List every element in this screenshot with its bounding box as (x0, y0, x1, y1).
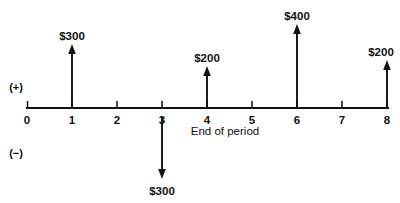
amount-label-period-6: $400 (284, 10, 310, 22)
tick-label-7: 7 (339, 114, 345, 126)
amount-label-period-8: $200 (368, 46, 394, 58)
cash-flow-svg: 0 1 2 3 4 5 6 7 8 End of period (+) (−) … (0, 0, 400, 203)
arrow-head-down-icon-period-3 (158, 169, 166, 179)
tick-label-2: 2 (114, 114, 120, 126)
cash-flow-arrow-period-6 (293, 24, 301, 108)
cash-flow-arrow-period-4 (203, 66, 211, 108)
cash-flow-arrow-period-3 (158, 117, 166, 179)
tick-label-6: 6 (294, 114, 300, 126)
tick-label-0: 0 (24, 114, 30, 126)
amount-label-period-4: $200 (194, 52, 220, 64)
cash-flow-arrow-period-8 (383, 60, 391, 108)
axis-caption: End of period (191, 125, 259, 137)
arrow-head-up-icon-period-1 (68, 44, 76, 54)
amount-label-period-1: $300 (59, 30, 85, 42)
arrow-head-up-icon-period-4 (203, 66, 211, 76)
arrow-head-up-icon-period-8 (383, 60, 391, 70)
arrow-head-up-icon-period-6 (293, 24, 301, 34)
tick-label-8: 8 (384, 114, 391, 126)
positive-sign-label: (+) (9, 81, 23, 93)
tick-label-1: 1 (69, 114, 76, 126)
negative-sign-label: (−) (9, 147, 23, 159)
amount-label-period-3: $300 (149, 185, 175, 197)
cash-flow-arrow-period-1 (68, 44, 76, 108)
cash-flow-diagram: 0 1 2 3 4 5 6 7 8 End of period (+) (−) … (0, 0, 400, 203)
